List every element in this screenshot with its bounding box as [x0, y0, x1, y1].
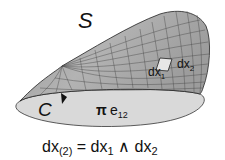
bivector-coefficient: π	[96, 103, 107, 117]
bivector-basis-subscript: 12	[118, 110, 128, 120]
element-label-1-text: dx	[148, 65, 161, 79]
element-label-2-sub: 2	[190, 64, 194, 73]
element-label-1: dx1	[148, 66, 165, 81]
surface-label: S	[78, 10, 93, 32]
bivector-basis-symbol: e	[110, 102, 118, 118]
equation-term1: dx	[91, 138, 108, 155]
equation-lhs: dx	[42, 138, 59, 155]
equation-term2: dx	[135, 138, 152, 155]
surface-diagram	[0, 0, 225, 160]
element-label-2-text: dx	[177, 57, 190, 71]
equation-lhs-sub: (2)	[59, 145, 72, 157]
equation: dx(2) = dx1 ∧ dx2	[42, 139, 158, 157]
wedge-operator: ∧	[114, 138, 135, 155]
element-label-1-sub: 1	[161, 72, 165, 81]
equation-term2-sub: 2	[151, 145, 157, 157]
equation-equals: =	[72, 138, 90, 155]
boundary-label: C	[38, 100, 52, 119]
element-label-2: dx2	[177, 58, 194, 73]
bivector-basis: e12	[110, 103, 128, 120]
